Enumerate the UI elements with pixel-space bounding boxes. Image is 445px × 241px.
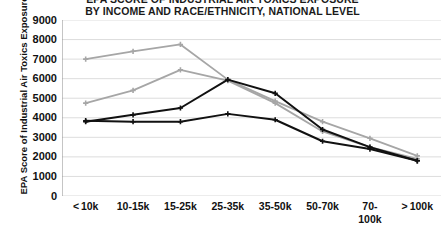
data-point-marker xyxy=(130,119,135,124)
data-point-marker xyxy=(83,118,88,123)
y-tick-label: 6000 xyxy=(5,73,57,84)
x-tick-label: 50-70k xyxy=(299,200,346,213)
x-tick-label-line-1: > 100k xyxy=(394,200,441,213)
plot-area xyxy=(62,20,441,196)
data-point-marker xyxy=(320,119,325,124)
data-point-marker xyxy=(83,57,88,62)
y-tick-label: 5000 xyxy=(5,93,57,104)
data-point-marker xyxy=(225,111,230,116)
data-point-marker xyxy=(178,119,183,124)
chart-title: EPA SCORE OF INDUSTRIAL AIR TOXICS EXPOS… xyxy=(0,0,445,17)
y-tick-label: 4000 xyxy=(5,112,57,123)
y-tick-label: 7000 xyxy=(5,54,57,65)
x-tick-label-line-1: 50-70k xyxy=(299,200,346,213)
x-tick-label-line-1: 15-25k xyxy=(157,200,204,213)
x-tick-label-line-1: < 10k xyxy=(62,200,109,213)
chart-container: EPA SCORE OF INDUSTRIAL AIR TOXICS EXPOS… xyxy=(0,0,445,241)
x-tick-label: > 100k xyxy=(394,200,441,213)
x-tick-label-line-1: 35-50k xyxy=(252,200,299,213)
y-tick-label: 9000 xyxy=(5,15,57,26)
series-line-1 xyxy=(86,44,418,155)
data-point-marker xyxy=(130,112,135,117)
x-tick-label: 70-100k xyxy=(346,200,393,225)
x-tick-label: 10-15k xyxy=(109,200,156,213)
x-tick-label: < 10k xyxy=(62,200,109,213)
x-tick-label-line-1: 10-15k xyxy=(109,200,156,213)
x-tick-label-line-1: 70- xyxy=(346,200,393,213)
data-point-marker xyxy=(178,67,183,72)
x-axis-tick-labels: < 10k10-15k15-25k25-35k35-50k50-70k70-10… xyxy=(62,200,441,240)
y-tick-label: 0 xyxy=(5,191,57,202)
data-point-marker xyxy=(130,88,135,93)
y-tick-label: 8000 xyxy=(5,34,57,45)
data-point-marker xyxy=(130,49,135,54)
data-point-marker xyxy=(367,136,372,141)
x-tick-label: 35-50k xyxy=(252,200,299,213)
y-axis-tick-labels: 0100020003000400050006000700080009000 xyxy=(0,20,57,196)
y-tick-label: 1000 xyxy=(5,171,57,182)
x-tick-label-line-2: 100k xyxy=(346,213,393,226)
chart-title-line-2: BY INCOME AND RACE/ETHNICITY, NATIONAL L… xyxy=(0,5,445,17)
x-tick-label-line-1: 25-35k xyxy=(204,200,251,213)
chart-plot-svg xyxy=(62,20,441,196)
gridlines xyxy=(62,20,441,196)
x-tick-label: 15-25k xyxy=(157,200,204,213)
y-tick-label: 3000 xyxy=(5,132,57,143)
y-tick-label: 2000 xyxy=(5,151,57,162)
data-point-marker xyxy=(83,101,88,106)
data-series-group xyxy=(83,42,420,164)
x-tick-label: 25-35k xyxy=(204,200,251,213)
